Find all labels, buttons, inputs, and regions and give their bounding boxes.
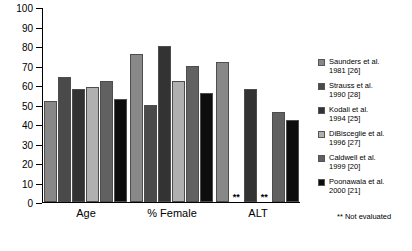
bar-group: ****	[214, 8, 300, 202]
bar-slot	[158, 8, 171, 202]
not-evaluated-marker: **	[233, 194, 240, 201]
bar[interactable]	[44, 101, 57, 202]
y-axis-tick	[36, 203, 42, 204]
y-axis-tick-label: 30	[22, 139, 33, 150]
x-axis-label: % Female	[129, 207, 215, 219]
bar-slot: **	[230, 8, 243, 202]
bar-slot	[286, 8, 299, 202]
y-axis-tick	[36, 28, 42, 29]
bar[interactable]	[286, 120, 299, 202]
bar-group	[129, 8, 215, 202]
legend-item[interactable]: Saunders et al.1981 [26]	[318, 58, 412, 75]
bar-slot	[216, 8, 229, 202]
y-axis-tick-label: 0	[27, 198, 33, 209]
bar[interactable]	[216, 62, 229, 202]
legend-item[interactable]: Strauss et al.1990 [28]	[318, 82, 412, 99]
bar[interactable]	[200, 93, 213, 202]
bar[interactable]	[186, 66, 199, 203]
bar-slot	[200, 8, 213, 202]
x-axis-labels: Age% FemaleALT	[43, 207, 301, 219]
legend-swatch	[318, 155, 325, 162]
legend-swatch	[318, 59, 325, 66]
y-axis-tick	[36, 145, 42, 146]
y-axis-tick-label: 10	[22, 178, 33, 189]
not-evaluated-marker: **	[261, 194, 268, 201]
bar-slot: **	[258, 8, 271, 202]
y-axis-tick-label: 60	[22, 81, 33, 92]
bar-groups: ****	[43, 8, 300, 202]
bar[interactable]	[158, 46, 171, 202]
bar[interactable]	[244, 89, 257, 202]
y-axis-tick	[36, 164, 42, 165]
bar[interactable]	[58, 77, 71, 202]
legend-label: Kodali et al.1994 [25]	[329, 106, 368, 123]
bar[interactable]	[86, 87, 99, 202]
y-axis-tick-label: 50	[22, 100, 33, 111]
legend-label: DiBisceglie et al.1996 [27]	[329, 130, 384, 147]
legend-swatch	[318, 131, 325, 138]
legend-item[interactable]: Kodali et al.1994 [25]	[318, 106, 412, 123]
bar[interactable]	[172, 81, 185, 202]
y-axis-tick	[36, 125, 42, 126]
bar-slot	[114, 8, 127, 202]
plot-area: 0102030405060708090100 ****	[42, 8, 300, 203]
legend-label-line2: 1996 [27]	[329, 139, 384, 148]
legend-item[interactable]: Poonawala et al.2000 [21]	[318, 178, 412, 195]
legend-swatch	[318, 107, 325, 114]
y-axis-tick-label: 20	[22, 159, 33, 170]
x-axis-line	[42, 202, 300, 203]
y-axis-tick	[36, 106, 42, 107]
bar-slot	[144, 8, 157, 202]
legend-swatch	[318, 179, 325, 186]
bar[interactable]	[130, 54, 143, 202]
footnote: ** Not evaluated	[337, 212, 391, 221]
bar[interactable]	[144, 105, 157, 203]
y-axis-tick-label: 70	[22, 61, 33, 72]
x-axis-label: ALT	[215, 207, 301, 219]
bar-group	[43, 8, 129, 202]
legend-label: Caldwell et al.1999 [20]	[329, 154, 376, 171]
y-axis-tick	[36, 67, 42, 68]
bar-slot	[172, 8, 185, 202]
bar[interactable]	[72, 89, 85, 202]
x-axis-label: Age	[43, 207, 129, 219]
y-axis-tick	[36, 8, 42, 9]
legend-label: Strauss et al.1990 [28]	[329, 82, 373, 99]
bar-slot	[130, 8, 143, 202]
y-axis-tick-label: 80	[22, 42, 33, 53]
bar-slot	[58, 8, 71, 202]
bar[interactable]	[100, 81, 113, 202]
y-axis-tick	[36, 47, 42, 48]
bar-chart: 0102030405060708090100 **** Age% FemaleA…	[0, 0, 412, 251]
bar-slot	[72, 8, 85, 202]
legend-label-line2: 1999 [20]	[329, 163, 376, 172]
legend-label-line2: 1981 [26]	[329, 67, 379, 76]
bar-slot	[44, 8, 57, 202]
legend-item[interactable]: Caldwell et al.1999 [20]	[318, 154, 412, 171]
legend-label-line2: 1990 [28]	[329, 91, 373, 100]
bar-slot	[186, 8, 199, 202]
bar-slot	[244, 8, 257, 202]
legend-swatch	[318, 83, 325, 90]
bar-slot	[86, 8, 99, 202]
legend-label-line2: 1994 [25]	[329, 115, 368, 124]
y-axis-tick-label: 100	[16, 3, 33, 14]
bar-slot	[272, 8, 285, 202]
legend-label: Saunders et al.1981 [26]	[329, 58, 379, 75]
legend-item[interactable]: DiBisceglie et al.1996 [27]	[318, 130, 412, 147]
legend: Saunders et al.1981 [26]Strauss et al.19…	[318, 58, 412, 202]
y-axis-tick-label: 90	[22, 22, 33, 33]
y-axis-tick-label: 40	[22, 120, 33, 131]
y-axis-tick	[36, 86, 42, 87]
bar[interactable]	[272, 112, 285, 202]
bar-slot	[100, 8, 113, 202]
legend-label: Poonawala et al.2000 [21]	[329, 178, 384, 195]
y-axis-tick	[36, 184, 42, 185]
bar[interactable]	[114, 99, 127, 202]
legend-label-line2: 2000 [21]	[329, 187, 384, 196]
